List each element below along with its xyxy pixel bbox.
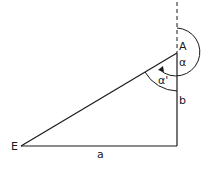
label-a: a <box>97 148 104 161</box>
label-E: E <box>11 140 18 153</box>
hypotenuse-line <box>21 53 177 146</box>
label-A: A <box>179 40 187 53</box>
label-b: b <box>179 94 186 107</box>
label-alpha: α <box>179 56 186 69</box>
triangle-diagram: A α α' b E a <box>0 0 212 171</box>
label-alpha-prime: α' <box>158 74 168 87</box>
